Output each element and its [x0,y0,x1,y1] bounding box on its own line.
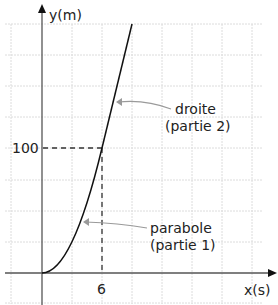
parabole-label-line1: parabole [150,221,212,236]
parabole-pointer [83,218,147,228]
y-axis-label: y(m) [49,8,82,23]
x-tick-6: 6 [97,282,106,297]
y-axis [38,4,46,305]
parabole-label-line2: (partie 1) [150,238,216,253]
y-tick-100: 100 [12,141,39,156]
parabole-pointer-arrow-icon [83,218,89,226]
droite-pointer [116,98,171,109]
straight-line [102,24,132,148]
droite-label-line2: (partie 2) [165,119,231,134]
droite-label-line1: droite [175,102,216,117]
grid [5,24,262,304]
chart-canvas [0,0,278,305]
y-axis-arrow-icon [38,4,46,13]
x-axis-arrow-icon [268,269,277,277]
droite-pointer-arrow-icon [116,98,122,106]
x-axis-label: x(s) [244,283,271,298]
